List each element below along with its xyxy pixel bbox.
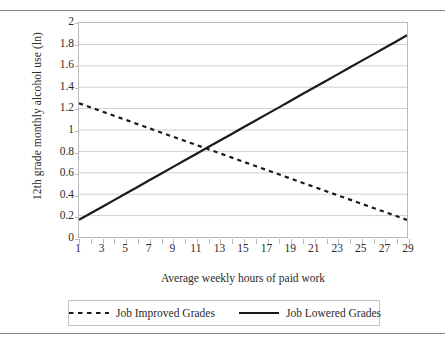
y-axis-tick-mark [75,131,79,132]
solid-line-swatch-icon [237,308,281,318]
y-tick-label: 2 [44,16,74,28]
y-axis-tick-mark [75,23,79,24]
y-tick-label: 0.8 [44,146,74,158]
y-tick-label: 1 [44,124,74,136]
y-tick-label: 0 [44,232,74,244]
x-tick-label: 25 [355,243,367,255]
y-axis-tick-mark [75,217,79,218]
y-axis-tick-mark [75,109,79,110]
figure-container: 12th grade monthly alcohol use (ln) 00.2… [0,0,445,348]
chart-legend: Job Improved Grades Job Lowered Grades [68,300,380,326]
y-tick-label: 1.8 [44,38,74,50]
x-tick-label: 1 [75,243,81,255]
top-horizontal-rule [0,10,445,11]
x-tick-label: 29 [402,243,414,255]
legend-label: Job Improved Grades [116,307,215,319]
x-tick-label: 11 [190,243,201,255]
chart-svg [79,23,407,237]
x-tick-label: 7 [146,243,152,255]
y-tick-label: 0.6 [44,167,74,179]
dashed-line-swatch-icon [67,308,111,318]
x-tick-label: 13 [214,243,226,255]
legend-label: Job Lowered Grades [286,307,381,319]
legend-item-job-lowered-grades: Job Lowered Grades [237,307,381,319]
y-axis-tick-mark [75,153,79,154]
y-tick-label: 1.2 [44,103,74,115]
y-tick-label: 1.6 [44,59,74,71]
y-axis-tick-labels: 00.20.40.60.811.21.41.61.82 [44,22,74,238]
legend-item-job-improved-grades: Job Improved Grades [67,307,215,319]
x-tick-label: 21 [308,243,320,255]
y-tick-label: 0.2 [44,211,74,223]
plot-area [78,22,408,238]
x-tick-label: 3 [99,243,105,255]
x-tick-label: 15 [237,243,249,255]
y-axis-tick-mark [75,196,79,197]
x-tick-label: 5 [122,243,128,255]
x-tick-label: 17 [261,243,273,255]
y-axis-title: 12th grade monthly alcohol use (ln) [31,1,43,231]
x-tick-label: 9 [169,243,175,255]
series-line-job-improved-grades [79,103,407,220]
x-axis-title: Average weekly hours of paid work [78,272,408,284]
y-axis-tick-mark [75,88,79,89]
y-tick-label: 0.4 [44,189,74,201]
y-axis-tick-mark [75,66,79,67]
bottom-horizontal-rule [0,333,445,334]
y-axis-tick-mark [75,45,79,46]
series-line-job-lowered-grades [79,35,407,220]
x-tick-label: 27 [379,243,391,255]
x-tick-label: 23 [332,243,344,255]
x-axis-tick-labels: 1357911131517192123252729 [78,243,408,261]
x-tick-label: 19 [284,243,296,255]
y-axis-tick-mark [75,174,79,175]
y-tick-label: 1.4 [44,81,74,93]
